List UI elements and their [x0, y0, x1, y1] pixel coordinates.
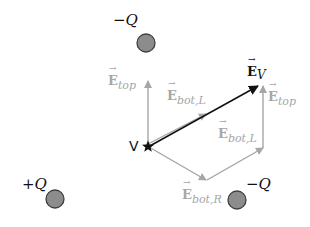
charge-label-top: −Q: [113, 13, 138, 28]
charge-bottom-right-negative: [228, 191, 246, 209]
vector-e-bot-l-upper: [148, 114, 206, 144]
vector-e-bot-r: [149, 147, 206, 180]
label-e-top-right: Etop: [268, 90, 296, 103]
charge-label-bottom-right: −Q: [246, 177, 271, 192]
label-e-bot-r: Ebot,R: [182, 188, 222, 201]
charge-top-negative: [137, 34, 155, 52]
charge-label-bottom-left: +Q: [22, 177, 47, 192]
label-e-bot-l-right: Ebot,L: [218, 127, 257, 140]
field-diagram: −Q +Q −Q V Etop Ebot,L EV Etop Ebot,L Eb…: [0, 0, 310, 227]
charge-bottom-left-positive: [46, 190, 64, 208]
label-e-bot-l-upper: Ebot,L: [167, 89, 206, 102]
label-e-top-left: Etop: [108, 74, 136, 87]
point-label-v: V: [129, 139, 139, 153]
label-e-v: EV: [247, 65, 266, 78]
